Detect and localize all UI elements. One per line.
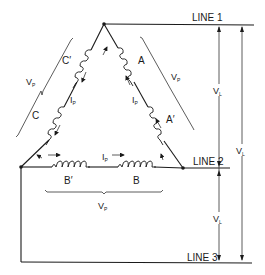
winding-b-side — [21, 161, 183, 168]
vp-label-right: VP — [171, 72, 181, 83]
winding-label-a: A — [138, 55, 145, 66]
vp-label-left: VP — [26, 77, 36, 88]
ip-label-left: IP — [70, 95, 77, 106]
line-3-label: LINE 3 — [187, 252, 218, 263]
winding-label-c-prime: C′ — [62, 55, 71, 66]
winding-label-b: B — [133, 175, 140, 186]
line-2-label: LINE 2 — [193, 156, 224, 167]
ip-label-bottom: IP — [102, 152, 109, 163]
junction-top — [102, 22, 106, 26]
winding-c-side — [21, 24, 104, 167]
winding-a-side — [104, 24, 183, 168]
winding-label-a-prime: A′ — [166, 114, 175, 125]
junction-left — [19, 165, 23, 169]
vp-label-bottom: VP — [98, 201, 108, 212]
delta-connection-diagram: LINE 1 LINE 2 LINE 3 A A′ C′ C B′ B VP V… — [0, 0, 265, 275]
ip-label-right: IP — [132, 95, 139, 106]
line-1-conductor — [104, 24, 254, 25]
vp-bracket-bottom — [45, 190, 163, 194]
junction-right — [181, 166, 185, 170]
vp-bracket-left — [16, 38, 73, 137]
winding-label-b-prime: B′ — [64, 175, 73, 186]
winding-label-c: C — [32, 110, 39, 121]
line-1-label: LINE 1 — [192, 12, 223, 23]
